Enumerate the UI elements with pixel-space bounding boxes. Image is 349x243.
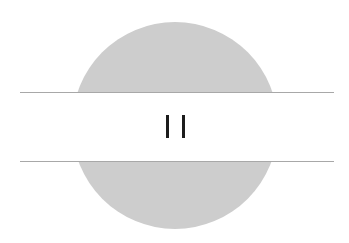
bottom-divider-line [20, 161, 334, 162]
pause-bar-right [182, 115, 185, 138]
pause-icon[interactable] [165, 115, 187, 138]
top-divider-line [20, 92, 334, 93]
pause-bar-left [166, 115, 169, 138]
